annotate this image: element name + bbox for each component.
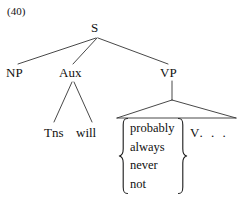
branch-s-to-np [18, 38, 96, 64]
branch-vp-to-adverb [117, 100, 172, 118]
branch-aux-to-will [74, 82, 92, 122]
adverb-alternation-set: probably always never not [118, 117, 188, 195]
tree-node-np: NP [6, 66, 23, 79]
adverb-item: probably [130, 119, 178, 138]
tree-node-aux: Aux [59, 66, 81, 79]
right-curly-brace-icon [177, 117, 188, 195]
branch-aux-to-tns [54, 82, 72, 122]
tree-node-s: S [91, 21, 98, 34]
adverb-item: not [130, 175, 178, 194]
tree-node-vp: VP [160, 66, 177, 79]
tree-node-tns: Tns [44, 126, 64, 139]
branch-vp-to-v [172, 100, 236, 118]
tree-node-v-ellipsis: . . . [199, 125, 228, 140]
adverb-list: probably always never not [130, 119, 178, 193]
tree-node-will: will [76, 126, 96, 139]
adverb-item: always [130, 138, 178, 157]
syntax-tree-figure: (40) S NP Aux VP Tns will V. . . probabl… [0, 0, 239, 199]
left-curly-brace-icon [118, 117, 129, 195]
tree-node-v-label: V [190, 125, 199, 140]
adverb-item: never [130, 156, 178, 175]
branch-s-to-vp [98, 38, 168, 64]
tree-node-v: V. . . [190, 126, 228, 139]
